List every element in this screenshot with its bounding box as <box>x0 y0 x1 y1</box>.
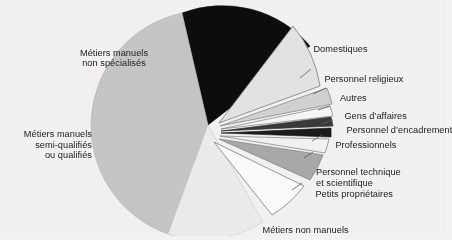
label-metiers-manuels-non-specialises: Métiers manuels non spécialisés Métiers … <box>44 16 184 90</box>
label-text-domestiques: Domestiques <box>313 44 367 54</box>
label-metiers-manuels-semi-qualifies: Métiers manuels semi-qualifiés ou qualif… <box>0 108 92 182</box>
label-metiers-non-manuels: Métiers non manuels <box>252 214 349 240</box>
label-text-mmns: Métiers manuels non spécialisés <box>44 48 184 69</box>
label-petits-proprietaires: Petits propriétaires <box>305 178 393 210</box>
label-text-petits-proprietaires: Petits propriétaires <box>315 189 393 199</box>
label-domestiques: Domestiques <box>303 33 368 65</box>
label-text-mmsq: Métiers manuels semi-qualifiés ou qualif… <box>0 129 92 161</box>
label-text-metiers-non-manuels: Métiers non manuels <box>262 225 348 235</box>
